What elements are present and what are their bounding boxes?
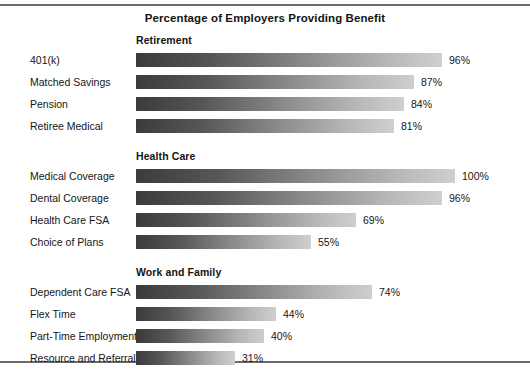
bar-row: Choice of Plans55%	[0, 231, 530, 253]
bar-value-label: 44%	[283, 307, 304, 321]
bar-value-label: 87%	[421, 75, 442, 89]
bar-track: 96%	[136, 53, 455, 67]
bar	[136, 75, 414, 89]
bar	[136, 169, 455, 183]
bar-category-label: Pension	[0, 93, 128, 115]
bar-group: Health CareMedical Coverage100%Dental Co…	[0, 147, 530, 253]
bar	[136, 53, 442, 67]
bar-group-header: Retirement	[0, 31, 530, 49]
bar-value-label: 55%	[318, 235, 339, 249]
bar-track: 74%	[136, 285, 455, 299]
bar-category-label: Part-Time Employment	[0, 325, 128, 347]
bar	[136, 213, 356, 227]
bar-row: Pension84%	[0, 93, 530, 115]
bar-track: 100%	[136, 169, 455, 183]
bar-track: 55%	[136, 235, 455, 249]
bar-row: Retiree Medical81%	[0, 115, 530, 137]
bar-value-label: 84%	[411, 97, 432, 111]
bar-value-label: 81%	[401, 119, 422, 133]
bar-row: Dependent Care FSA74%	[0, 281, 530, 303]
bar-value-label: 31%	[242, 351, 263, 365]
bar	[136, 329, 264, 343]
bar-group: Work and FamilyDependent Care FSA74%Flex…	[0, 263, 530, 369]
bar-track: 84%	[136, 97, 455, 111]
bar-category-label: Resource and Referral	[0, 347, 128, 369]
bar-track: 81%	[136, 119, 455, 133]
chart-container: Percentage of Employers Providing Benefi…	[0, 0, 530, 376]
bar-group-header: Work and Family	[0, 263, 530, 281]
bar-category-label: Retiree Medical	[0, 115, 128, 137]
bar-track: 44%	[136, 307, 455, 321]
bar-row: Medical Coverage100%	[0, 165, 530, 187]
bar-value-label: 100%	[462, 169, 489, 183]
bar	[136, 307, 276, 321]
bar-value-label: 40%	[271, 329, 292, 343]
bar-track: 69%	[136, 213, 455, 227]
bar-row: Resource and Referral31%	[0, 347, 530, 369]
bar-row: Dental Coverage96%	[0, 187, 530, 209]
bar	[136, 191, 442, 205]
bar-row: Flex Time44%	[0, 303, 530, 325]
chart-title: Percentage of Employers Providing Benefi…	[0, 12, 530, 24]
bar	[136, 235, 311, 249]
bar-category-label: Dental Coverage	[0, 187, 128, 209]
bar-category-label: Matched Savings	[0, 71, 128, 93]
bar	[136, 285, 372, 299]
bar-value-label: 69%	[363, 213, 384, 227]
bar-row: Matched Savings87%	[0, 71, 530, 93]
bar-group: Retirement401(k)96%Matched Savings87%Pen…	[0, 31, 530, 137]
bar-row: Part-Time Employment40%	[0, 325, 530, 347]
group-spacer	[0, 137, 530, 147]
bar-value-label: 74%	[379, 285, 400, 299]
bar	[136, 351, 235, 365]
group-spacer	[0, 253, 530, 263]
bar-category-label: Flex Time	[0, 303, 128, 325]
bar-category-label: Dependent Care FSA	[0, 281, 128, 303]
bar-category-label: Choice of Plans	[0, 231, 128, 253]
bar	[136, 97, 404, 111]
bar-chart-plot: Retirement401(k)96%Matched Savings87%Pen…	[0, 31, 530, 369]
frame-rule-top	[0, 4, 530, 6]
bar-category-label: Medical Coverage	[0, 165, 128, 187]
bar-track: 87%	[136, 75, 455, 89]
bar	[136, 119, 394, 133]
bar-value-label: 96%	[449, 53, 470, 67]
bar-category-label: 401(k)	[0, 49, 128, 71]
bar-category-label: Health Care FSA	[0, 209, 128, 231]
bar-row: 401(k)96%	[0, 49, 530, 71]
bar-value-label: 96%	[449, 191, 470, 205]
bar-track: 31%	[136, 351, 455, 365]
bar-group-header: Health Care	[0, 147, 530, 165]
bar-track: 40%	[136, 329, 455, 343]
bar-row: Health Care FSA69%	[0, 209, 530, 231]
bar-track: 96%	[136, 191, 455, 205]
